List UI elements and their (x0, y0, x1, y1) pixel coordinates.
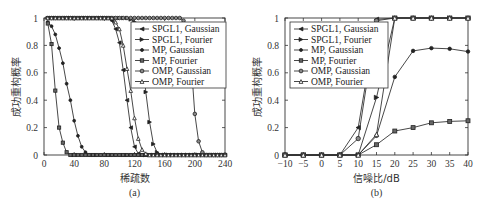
circle-marker-icon (144, 16, 148, 20)
y-tick-label: 1 (274, 14, 279, 24)
y-tick-label: 0.8 (267, 41, 279, 51)
y-tick-label: 0.2 (267, 123, 279, 133)
square-marker-icon (76, 153, 79, 156)
y-tick-label: 0.8 (26, 41, 38, 51)
square-marker-icon (122, 153, 125, 156)
dot-marker-icon (466, 50, 470, 54)
square-marker-icon (466, 119, 470, 123)
x-tick-label: 5 (338, 159, 343, 169)
dot-marker-icon (61, 62, 64, 65)
circle-marker-icon (121, 16, 125, 20)
legend: SPGL1, GaussianSPGL1, FourierMP, Gaussia… (290, 22, 388, 88)
x-tick-label: −10 (278, 159, 293, 169)
square-marker-icon (125, 153, 128, 156)
square-marker-icon (393, 129, 397, 133)
x-tick-label: 40 (69, 159, 79, 169)
legend-label: SPGL1, Fourier (152, 35, 214, 45)
circle-marker-icon (174, 16, 178, 20)
square-marker-icon (103, 153, 106, 156)
legend-label: MP, Gaussian (311, 45, 364, 55)
x-tick-label: 10 (353, 159, 363, 169)
square-marker-icon (46, 22, 49, 25)
dot-marker-icon (69, 99, 72, 102)
right-triangle-marker-icon (374, 95, 378, 99)
left-triangle-marker-icon (118, 41, 122, 45)
legend-label: SPGL1, Gaussian (311, 24, 379, 34)
dot-marker-icon (54, 33, 57, 36)
y-tick-label: 1 (33, 14, 38, 24)
x-tick-label: 20 (390, 159, 400, 169)
dot-marker-icon (50, 25, 53, 28)
y-axis-label: 成功重构概率 (10, 57, 22, 117)
x-tick-label: 0 (42, 159, 47, 169)
dot-marker-icon (140, 48, 143, 51)
legend-label: OMP, Fourier (152, 77, 205, 87)
circle-marker-icon (140, 69, 144, 73)
dot-marker-icon (299, 48, 302, 51)
square-marker-icon (80, 153, 83, 156)
circle-marker-icon (118, 16, 122, 20)
subfigure-caption: (b) (371, 187, 383, 199)
chart-b: −10−5051015202530354000.20.40.60.81信噪比/d… (251, 14, 473, 200)
square-marker-icon (140, 153, 143, 156)
up-triangle-marker-icon (121, 44, 125, 48)
x-tick-label: 80 (100, 159, 110, 169)
up-triangle-marker-icon (129, 89, 133, 93)
legend-label: MP, Fourier (311, 56, 357, 66)
square-marker-icon (129, 153, 132, 156)
square-marker-icon (57, 126, 60, 129)
right-triangle-marker-icon (148, 120, 152, 124)
legend-label: OMP, Gaussian (152, 66, 211, 76)
subfigure-caption: (a) (129, 187, 140, 199)
up-triangle-marker-icon (118, 27, 122, 31)
up-triangle-marker-icon (140, 148, 144, 152)
dot-marker-icon (448, 47, 452, 51)
x-tick-label: 120 (127, 159, 142, 169)
square-marker-icon (61, 141, 64, 144)
square-marker-icon (73, 153, 76, 156)
chart-a: 0408012016020024000.20.40.60.81稀疏数成功重构概率… (10, 14, 232, 200)
y-tick-label: 0 (33, 151, 38, 161)
left-triangle-marker-icon (129, 126, 133, 130)
circle-marker-icon (114, 16, 118, 20)
circle-marker-icon (299, 69, 303, 73)
x-axis-label: 信噪比/dB (353, 173, 400, 184)
figure-canvas: 0408012016020024000.20.40.60.81稀疏数成功重构概率… (0, 0, 481, 215)
x-tick-label: 160 (158, 159, 173, 169)
circle-marker-icon (155, 16, 159, 20)
dot-marker-icon (58, 47, 61, 50)
square-marker-icon (84, 153, 87, 156)
x-tick-label: 35 (445, 159, 455, 169)
up-triangle-marker-icon (133, 116, 137, 120)
y-tick-label: 0.4 (267, 96, 279, 106)
dot-marker-icon (430, 46, 434, 50)
square-marker-icon (65, 151, 68, 154)
legend-label: OMP, Gaussian (311, 66, 370, 76)
square-marker-icon (118, 153, 121, 156)
square-marker-icon (411, 126, 415, 130)
left-triangle-marker-icon (125, 98, 129, 102)
x-axis-label: 稀疏数 (120, 172, 150, 184)
circle-marker-icon (193, 112, 197, 116)
x-tick-label: 30 (427, 159, 437, 169)
square-marker-icon (448, 119, 452, 123)
y-tick-label: 0.6 (26, 68, 38, 78)
x-tick-label: 240 (218, 159, 233, 169)
left-triangle-marker-icon (133, 145, 137, 149)
circle-marker-icon (133, 16, 137, 20)
circle-marker-icon (170, 16, 174, 20)
square-marker-icon (299, 59, 302, 62)
circle-marker-icon (167, 16, 171, 20)
up-triangle-marker-icon (125, 67, 129, 71)
left-triangle-marker-icon (121, 68, 125, 72)
square-marker-icon (99, 153, 102, 156)
x-tick-label: 25 (408, 159, 418, 169)
square-marker-icon (114, 153, 117, 156)
x-tick-label: −5 (298, 159, 308, 169)
legend-label: MP, Fourier (152, 56, 198, 66)
square-marker-icon (91, 153, 94, 156)
x-tick-label: 40 (463, 159, 473, 169)
square-marker-icon (54, 89, 57, 92)
x-tick-label: 200 (188, 159, 203, 169)
dot-marker-icon (65, 82, 68, 85)
